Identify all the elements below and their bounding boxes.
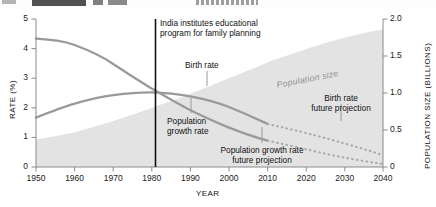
population-growth-rate-label-line2: growth rate	[167, 127, 209, 137]
y2-tick-label: 1.5	[390, 51, 412, 61]
population-growth-projection-label: Population growth rate future projection	[209, 146, 315, 166]
event-annotation: India institutes educational program for…	[160, 18, 261, 38]
y2-tick-label: 2.0	[390, 14, 412, 24]
y2-tick-label: 1.0	[390, 88, 412, 98]
birth-rate-label: Birth rate	[185, 61, 219, 71]
x-tick-label: 2020	[291, 174, 321, 184]
artifact-mark	[2, 0, 16, 4]
population-chart: 5 4 3 2 1 0 2.0 1.5 1.0 0.5 0 1950 1960 …	[0, 9, 436, 207]
x-tick-label: 2030	[330, 174, 360, 184]
artifact-mark	[93, 0, 103, 5]
x-tick-label: 1970	[98, 174, 128, 184]
figure-root: 5 4 3 2 1 0 2.0 1.5 1.0 0.5 0 1950 1960 …	[0, 0, 436, 207]
y2-axis-title: POPULATION SIZE (BILLIONS)	[424, 43, 433, 169]
y2-tick-label: 0.5	[390, 125, 412, 135]
y-tick-label: 4	[10, 44, 28, 54]
x-tick-label: 1980	[137, 174, 167, 184]
x-tick-label: 1950	[21, 174, 51, 184]
event-annotation-line2: program for family planning	[160, 28, 261, 38]
x-tick-label: 2040	[368, 174, 398, 184]
x-axis-title: YEAR	[196, 190, 220, 199]
population-growth-rate-label: Population growth rate	[167, 117, 209, 137]
artifact-mark	[32, 0, 86, 6]
event-annotation-line1: India institutes educational	[160, 18, 261, 28]
y-axis-left-ticks	[32, 19, 37, 167]
page-artifact-strip	[0, 0, 436, 9]
birth-rate-projection-label: Birth rate future projection	[305, 94, 377, 114]
x-axis-ticks	[36, 167, 383, 172]
x-tick-label: 1960	[60, 174, 90, 184]
artifact-mark	[108, 0, 127, 5]
x-tick-label: 2000	[214, 174, 244, 184]
y-axis-title: RATE (%)	[9, 80, 18, 119]
y-tick-label: 1	[10, 132, 28, 142]
y-tick-label: 5	[10, 14, 28, 24]
y2-tick-label: 0	[390, 162, 412, 172]
y-axis-right-ticks	[383, 19, 388, 167]
birth-rate-projection-label-line2: future projection	[305, 104, 377, 114]
y-tick-label: 0	[10, 162, 28, 172]
x-tick-label: 2010	[253, 174, 283, 184]
population-growth-projection-label-line2: future projection	[209, 156, 315, 166]
x-tick-label: 1990	[175, 174, 205, 184]
artifact-mark	[196, 0, 258, 5]
